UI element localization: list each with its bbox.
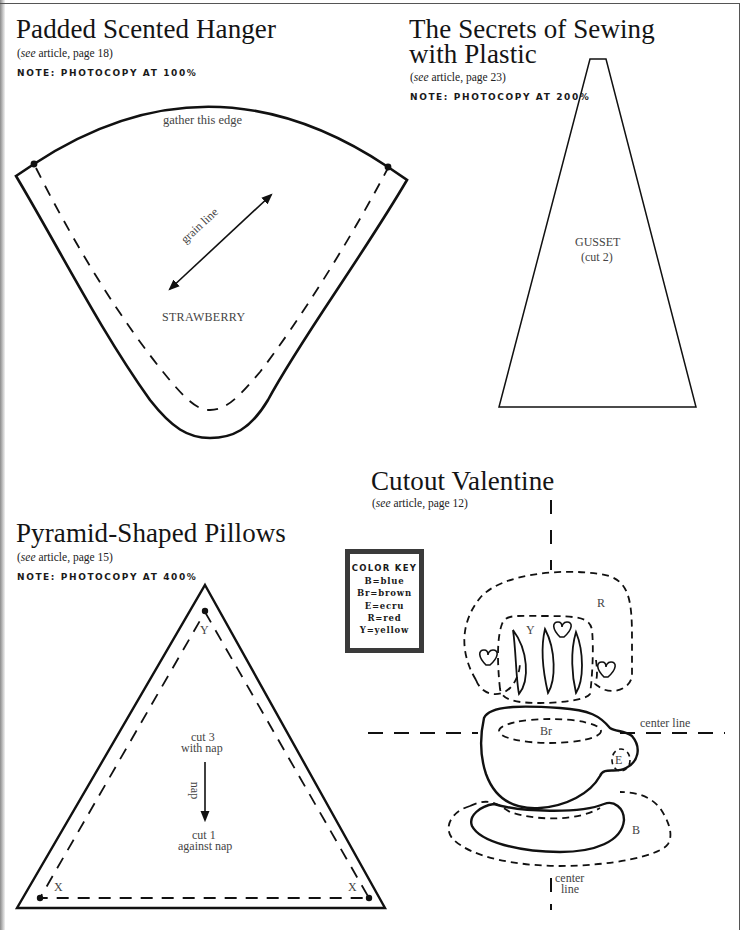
heart-left [480, 650, 497, 665]
color-key-item: B=blue [350, 575, 419, 587]
gusset-cut-line [499, 59, 696, 407]
pattern-page: Padded Scented Hanger (see article, page… [0, 0, 752, 930]
pillows-title: Pyramid-Shaped Pillows [16, 520, 286, 547]
gusset-label: GUSSET [575, 235, 620, 250]
yellow-area-label: Y [526, 623, 535, 638]
steam-swirl-2 [543, 629, 554, 693]
heart-right [598, 662, 615, 677]
steam-swirl-1 [513, 630, 526, 694]
pyramid-mark-left [37, 895, 43, 901]
color-key-item: Br=brown [350, 587, 419, 599]
plastic-article-ref: (see article, page 23) [410, 71, 506, 83]
steam-swirl-3 [572, 632, 582, 693]
nap-direction-label: nap [187, 782, 202, 799]
blue-area-label: B [632, 823, 640, 838]
color-key-box: COLOR KEY B=blue Br=brown E=ecru R=red Y… [345, 549, 424, 653]
hanger-photocopy-note: NOTE: PHOTOCOPY AT 100% [17, 68, 197, 78]
strawberry-pattern-piece [16, 107, 407, 438]
pillows-photocopy-note: NOTE: PHOTOCOPY AT 400% [17, 572, 197, 582]
cut-with-nap-line2: with nap [181, 741, 223, 756]
brown-area-label: Br [540, 724, 552, 739]
color-key-item: E=ecru [350, 600, 419, 612]
color-key-item: R=red [350, 612, 419, 624]
plastic-title-line2: with Plastic [409, 41, 537, 68]
valentine-title: Cutout Valentine [371, 468, 554, 495]
ecru-area-label: E [615, 753, 622, 768]
heart-top [554, 622, 571, 637]
valentine-article-ref: (see article, page 12) [372, 497, 468, 509]
pyramid-point-y-label: Y [200, 623, 209, 638]
color-key-title: COLOR KEY [350, 563, 419, 573]
pyramid-point-x-right-label: X [348, 880, 357, 895]
red-area-label: R [597, 596, 605, 611]
pillows-article-ref: (see article, page 15) [17, 551, 113, 563]
gusset-pattern-piece [499, 59, 696, 407]
vertical-center-line-label-2: line [561, 882, 579, 897]
plastic-photocopy-note: NOTE: PHOTOCOPY AT 200% [410, 92, 590, 102]
hanger-title: Padded Scented Hanger [16, 16, 276, 43]
pyramid-mark-right [366, 895, 372, 901]
strawberry-label: STRAWBERRY [162, 310, 245, 325]
hanger-article-ref: (see article, page 18) [17, 47, 113, 59]
strawberry-stitch-line [36, 168, 388, 410]
gusset-cut-label: (cut 2) [581, 250, 613, 265]
color-key-item: Y=yellow [350, 624, 419, 636]
pyramid-point-x-left-label: X [54, 880, 63, 895]
gather-edge-label: gather this edge [163, 113, 242, 128]
red-area-outline [464, 572, 632, 694]
saucer-outline [471, 803, 624, 852]
horizontal-center-line-label: center line [640, 716, 690, 731]
strawberry-mark-right [385, 164, 392, 171]
strawberry-mark-left [31, 161, 38, 168]
pyramid-mark-top [202, 608, 208, 614]
pattern-line-art [0, 0, 752, 930]
cut-against-nap-line2: against nap [178, 839, 232, 854]
strawberry-cut-line [16, 107, 407, 438]
